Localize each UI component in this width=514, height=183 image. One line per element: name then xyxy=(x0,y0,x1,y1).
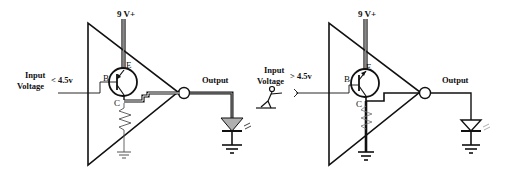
person-pushing-icon xyxy=(256,87,282,109)
collector-label: C xyxy=(356,99,362,109)
ground-icon xyxy=(462,145,480,153)
supply-label: 9 V+ xyxy=(358,9,376,19)
right-circuit: 9 V+ xyxy=(256,9,490,165)
resistor xyxy=(119,103,131,152)
output-label: Output xyxy=(442,75,469,85)
emitter-label: E xyxy=(126,60,132,70)
led-icon xyxy=(221,118,251,145)
inverter-bubble xyxy=(179,88,190,99)
ground-icon xyxy=(358,152,374,160)
supply-label: 9 V+ xyxy=(117,9,135,19)
input-label: Input xyxy=(264,65,284,75)
collector-label: C xyxy=(114,98,120,108)
condition-label: > 4.5v xyxy=(290,71,313,81)
led-icon xyxy=(461,120,490,145)
base-label: B xyxy=(344,74,350,84)
emitter-label: E xyxy=(366,62,372,72)
ground-icon xyxy=(117,152,131,158)
input-label: Input xyxy=(25,70,45,80)
condition-label: < 4.5v xyxy=(51,75,74,85)
left-circuit: 9 V+ xyxy=(17,9,251,165)
input-wire xyxy=(296,85,359,93)
output-label: Output xyxy=(202,75,229,85)
inverter-bubble xyxy=(420,88,431,99)
circuit-diagram: 9 V+ xyxy=(0,0,514,183)
voltage-label: Voltage xyxy=(17,81,44,91)
voltage-label: Voltage xyxy=(257,76,284,86)
ground-icon xyxy=(222,145,242,153)
base-label: B xyxy=(103,73,109,83)
